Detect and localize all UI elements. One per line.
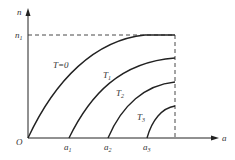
label-T2: T2: [116, 88, 124, 99]
tick-a2: a2: [104, 142, 112, 153]
tick-a3: a3: [143, 142, 151, 153]
y-axis-label: n: [17, 7, 22, 17]
tick-a1: a1: [64, 142, 72, 153]
x-axis-label: a: [222, 133, 227, 143]
y-axis-arrow-icon: [26, 8, 31, 16]
x-axis-arrow-icon: [211, 136, 219, 141]
curve-T3: [147, 106, 175, 138]
label-T3: T3: [137, 112, 145, 123]
diagram: n a O n1 a1 a2 a3 T=0 T1 T2 T3: [0, 0, 235, 160]
label-T1: T1: [103, 70, 111, 81]
n1-label: n1: [15, 30, 23, 41]
origin-label: O: [16, 137, 23, 147]
label-T0: T=0: [53, 60, 69, 70]
